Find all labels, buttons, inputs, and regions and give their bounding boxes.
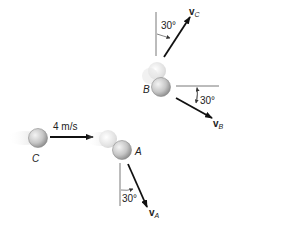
ball-c-label: C — [32, 153, 40, 164]
angle-b-label: 30° — [200, 95, 215, 106]
velocity-a-label: vA — [149, 207, 160, 219]
angle-arc — [157, 34, 170, 38]
collision-diagram: C 4 m/s A 30° vA 30° vC B — [0, 0, 303, 228]
velocity-a: 30° vA — [120, 163, 160, 219]
velocity-c-label: vC — [189, 6, 201, 18]
angle-a-label: 30° — [122, 193, 137, 204]
ball-a-label: A — [134, 146, 142, 157]
initial-velocity-label: 4 m/s — [53, 121, 77, 132]
ball-a — [113, 141, 132, 160]
angle-arc — [121, 189, 133, 190]
ball-b-label: B — [143, 84, 150, 95]
velocity-c: 30° vC — [157, 6, 201, 57]
velocity-b-label: vB — [213, 118, 224, 130]
ball-a-group: A — [113, 141, 143, 160]
ball-c-group: C — [8, 129, 48, 165]
ball-c — [29, 129, 48, 148]
angle-c-label: 30° — [161, 20, 176, 31]
velocity-b: 30° vB — [176, 86, 224, 130]
ball-b — [152, 78, 171, 97]
initial-velocity: 4 m/s — [50, 121, 93, 137]
